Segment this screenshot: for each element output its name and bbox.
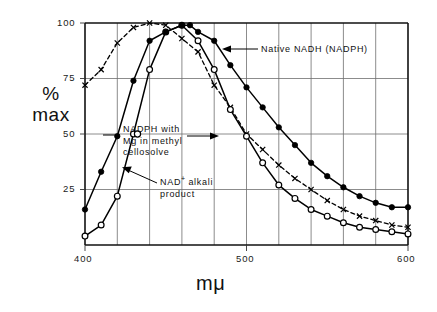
data-point-marker	[147, 67, 153, 73]
x-tick-label-500: 500	[236, 253, 255, 264]
data-point-marker	[373, 200, 378, 205]
data-point-marker	[357, 224, 363, 230]
data-point-marker	[187, 23, 192, 28]
data-point-marker	[131, 78, 136, 83]
annotation-nad-name: NAD	[160, 177, 181, 187]
data-point-marker	[195, 38, 201, 44]
data-point-marker	[244, 133, 250, 139]
annotation-nadph-line3: cellosolve	[123, 147, 182, 159]
data-point-marker	[389, 229, 395, 235]
chart-page: 100 75 50 25 400 500 600 % max mμ Native…	[0, 0, 437, 312]
annotation-nadph-line2: Mg in methyl	[123, 136, 182, 148]
data-point-marker	[373, 227, 379, 233]
x-tick-label-400: 400	[74, 253, 93, 264]
data-point-marker	[405, 231, 411, 237]
y-tick-label-25: 25	[63, 183, 75, 194]
data-point-marker	[211, 67, 217, 73]
annotation-native-nadh: Native NADH (NADPH)	[261, 44, 368, 56]
annotation-nad-suffix: alkali	[185, 177, 213, 187]
annotation-nadph-mg: NADPH with Mg in methyl cellosolve	[123, 124, 182, 159]
data-point-marker	[195, 29, 200, 34]
data-point-marker	[212, 38, 217, 43]
annotation-nad-alkali: NAD+ alkali product	[160, 173, 213, 200]
annotation-nad-line1: NAD+ alkali	[160, 173, 213, 189]
x-tick-marks	[85, 245, 408, 251]
y-axis-title: % max	[18, 83, 84, 125]
data-point-marker	[341, 185, 346, 190]
data-point-marker	[114, 193, 120, 199]
data-point-marker	[389, 205, 394, 210]
data-point-marker	[179, 23, 184, 28]
y-tick-label-50: 50	[63, 128, 75, 139]
data-point-marker	[98, 222, 104, 228]
annotation-nadph-line1: NADPH with	[123, 124, 182, 136]
data-point-marker	[308, 160, 313, 165]
data-point-marker	[324, 213, 330, 219]
data-point-marker	[227, 107, 233, 113]
y-tick-label-75: 75	[63, 72, 75, 83]
x-tick-label-600: 600	[397, 253, 416, 264]
data-point-marker	[276, 125, 281, 130]
annotation-nad-line2: product	[160, 189, 213, 201]
data-point-marker	[228, 62, 233, 67]
y-tick-label-100: 100	[57, 17, 76, 28]
y-axis-title-line1: %	[18, 83, 84, 104]
data-point-marker	[98, 169, 103, 174]
data-point-marker	[292, 142, 297, 147]
data-point-marker	[308, 207, 314, 213]
data-point-marker	[82, 207, 87, 212]
data-point-marker	[115, 134, 120, 139]
x-axis-title: mμ	[196, 272, 225, 295]
y-axis-title-line2: max	[18, 104, 84, 125]
data-point-marker	[244, 85, 249, 90]
data-point-marker	[276, 182, 282, 188]
data-point-marker	[147, 38, 152, 43]
spectrum-chart	[0, 0, 437, 312]
data-point-marker	[82, 233, 88, 239]
data-point-marker	[260, 105, 265, 110]
data-point-marker	[357, 193, 362, 198]
data-point-marker	[163, 29, 168, 34]
data-point-marker	[292, 195, 298, 201]
data-point-marker	[341, 220, 347, 226]
data-point-marker	[325, 173, 330, 178]
data-point-marker	[260, 160, 266, 166]
data-point-marker	[405, 205, 410, 210]
